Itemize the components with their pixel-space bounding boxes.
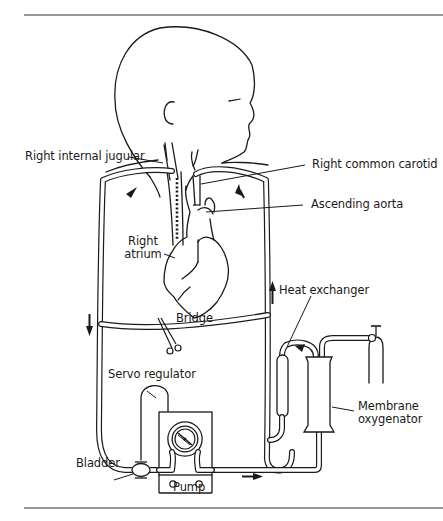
- label-membrane-line2: oxygenator: [358, 413, 422, 426]
- label-right-atrium-line2: atrium: [118, 248, 168, 261]
- label-servo-regulator: Servo regulator: [108, 368, 196, 381]
- label-bridge: Bridge: [176, 312, 213, 325]
- arrow-right-icon: [253, 473, 263, 480]
- membrane-oxygenator: [304, 357, 334, 432]
- arrow-down-left-icon: [126, 180, 147, 198]
- label-right-atrium: Right atrium: [118, 235, 168, 261]
- arterial-cannula: [193, 176, 200, 205]
- label-pump: Pump: [173, 481, 205, 494]
- ecmo-circuit-diagram: [0, 0, 443, 521]
- label-heat-exchanger: Heat exchanger: [279, 284, 369, 297]
- bladder: [132, 462, 150, 478]
- label-membrane-oxygenator: Membrane oxygenator: [358, 400, 422, 426]
- label-bladder: Bladder: [76, 457, 120, 470]
- gas-cylinder-icon: [369, 326, 384, 383]
- label-right-common-carotid: Right common carotid: [312, 158, 438, 171]
- venous-cannula: [167, 172, 183, 245]
- label-right-internal-jugular: Right internal jugular: [25, 150, 145, 163]
- label-ascending-aorta: Ascending aorta: [311, 198, 403, 211]
- heat-exchanger: [270, 355, 288, 440]
- heart: [164, 176, 228, 318]
